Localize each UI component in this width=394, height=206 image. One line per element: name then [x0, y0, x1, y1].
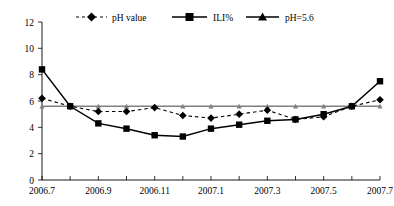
x-label-1: 2006.9 [85, 186, 111, 196]
line-chart: pH value ILI% pH=5.6 [0, 0, 394, 206]
x-label-4: 2007.3 [254, 186, 280, 196]
chart-container: pH value ILI% pH=5.6 [0, 0, 394, 206]
x-label-3: 2007.1 [198, 186, 224, 196]
data-point-square [208, 125, 214, 131]
data-point-diamond [179, 112, 187, 120]
y-label-10: 10 [25, 44, 35, 54]
y-label-4: 4 [29, 123, 34, 133]
y-label-8: 8 [29, 70, 34, 80]
data-point-square [95, 120, 101, 126]
legend-item-ph-value: pH value [76, 13, 147, 23]
legend-item-ili: ILI% [172, 13, 233, 23]
data-point-square [123, 125, 129, 131]
data-point-diamond [151, 104, 159, 112]
x-label-2: 2006.11 [139, 186, 170, 196]
legend-label-ph56: pH=5.6 [285, 13, 314, 23]
data-point-diamond [95, 108, 103, 116]
data-point-diamond [264, 106, 272, 114]
x-label-0: 2006.7 [29, 186, 55, 196]
data-point-square [39, 66, 45, 72]
data-point-diamond [123, 108, 131, 116]
legend-marker-diamond-icon [87, 13, 96, 22]
y-label-12: 12 [25, 18, 35, 28]
data-point-square [180, 133, 186, 139]
data-point-diamond [235, 110, 243, 118]
data-point-square [377, 78, 383, 84]
series-ili-percent [39, 66, 383, 140]
legend-item-ph56: pH=5.6 [246, 12, 314, 22]
y-label-0: 0 [29, 176, 34, 186]
series-ph-5-6 [39, 104, 382, 109]
y-axis-labels: 12 10 8 6 4 2 0 [25, 18, 35, 186]
data-point-square [151, 132, 157, 138]
data-point-diamond [376, 96, 384, 104]
x-label-6: 2007.7 [367, 186, 393, 196]
y-label-6: 6 [29, 97, 34, 107]
y-label-2: 2 [29, 149, 34, 159]
x-axis-ticks [42, 176, 380, 180]
data-point-square [236, 122, 242, 128]
legend-label-ph-value: pH value [112, 13, 147, 23]
chart-legend: pH value ILI% pH=5.6 [76, 12, 314, 22]
data-point-diamond [207, 114, 215, 122]
legend-marker-square-icon [186, 13, 194, 21]
data-point-square [264, 118, 270, 124]
x-label-5: 2007.5 [311, 186, 337, 196]
legend-label-ili: ILI% [213, 13, 233, 23]
x-axis-labels: 2006.72006.92006.112007.12007.32007.5200… [29, 186, 393, 196]
